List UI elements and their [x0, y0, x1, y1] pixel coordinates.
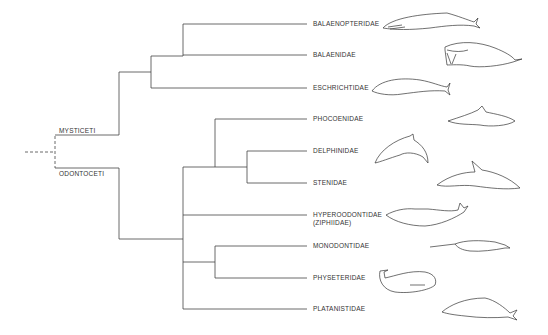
family-label-eschrichtidae: ESCHRICHTIDAE: [313, 84, 369, 92]
family-label-platanistidae: PLATANISTIDAE: [313, 305, 365, 313]
phylogenetic-tree: [0, 0, 548, 335]
family-label-hyperoodontidae: HYPEROODONTIDAE: [313, 211, 382, 219]
family-label-physeteridae: PHYSETERIDAE: [313, 274, 366, 282]
suborder-label-mysticeti: MYSTICETI: [59, 127, 95, 135]
sperm-whale-icon: [380, 270, 436, 293]
dolphin-icon: [375, 134, 428, 163]
family-label-balaenopteridae: BALAENOPTERIDAE: [313, 20, 379, 28]
rough-toothed-dolphin-icon: [437, 161, 520, 189]
narwhal-icon: [430, 241, 510, 252]
family-sublabel-ziphiidae: (ZIPHIIDAE): [313, 219, 351, 227]
rorqual-whale-icon: [383, 13, 480, 30]
family-label-delphinidae: DELPHINIDAE: [313, 147, 359, 155]
gray-whale-icon: [372, 79, 450, 95]
family-label-stenidae: STENIDAE: [313, 179, 347, 187]
family-label-phocoenidae: PHOCOENIDAE: [313, 115, 363, 123]
river-dolphin-icon: [442, 298, 517, 320]
porpoise-icon: [448, 106, 515, 126]
beaked-whale-icon: [386, 203, 468, 226]
suborder-label-odontoceti: ODONTOCETI: [59, 170, 104, 178]
family-label-monodontidae: MONODONTIDAE: [313, 242, 369, 250]
family-label-balaenidae: BALAENIDAE: [313, 51, 356, 59]
right-whale-icon: [445, 43, 522, 67]
